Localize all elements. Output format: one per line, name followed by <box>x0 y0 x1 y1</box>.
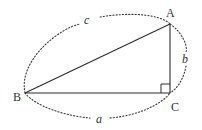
right-triangle-diagram: A B C c b a <box>0 0 202 130</box>
arc-side-c <box>24 14 170 93</box>
vertex-label-b: B <box>13 90 21 104</box>
vertex-label-a: A <box>166 6 175 20</box>
side-label-a: a <box>96 112 102 126</box>
right-angle-marker <box>161 84 170 93</box>
side-c-hypotenuse <box>25 24 170 93</box>
side-label-c: c <box>84 13 90 27</box>
vertex-label-c: C <box>171 100 179 114</box>
side-label-b: b <box>182 52 188 66</box>
